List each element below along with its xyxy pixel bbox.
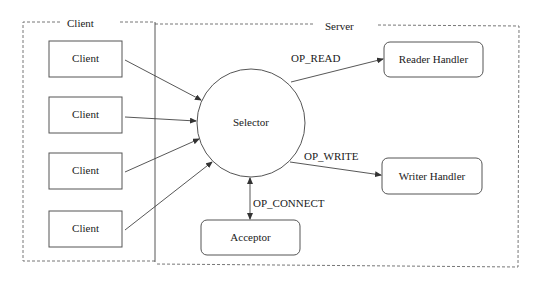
client-node-3[interactable]: Client xyxy=(49,153,122,189)
selector-label: Selector xyxy=(233,116,269,128)
op-write-arrow xyxy=(290,162,381,175)
client1-to-selector-arrow xyxy=(125,60,201,100)
client-node-1[interactable]: Client xyxy=(49,41,122,77)
client-label: Client xyxy=(72,52,99,64)
reader-handler-node[interactable]: Reader Handler xyxy=(384,42,483,77)
writer-handler-label: Writer Handler xyxy=(399,170,466,182)
acceptor-node[interactable]: Acceptor xyxy=(201,220,300,255)
client-label: Client xyxy=(72,164,99,176)
acceptor-label: Acceptor xyxy=(230,231,271,243)
server-region-label: Server xyxy=(325,20,354,32)
client-node-2[interactable]: Client xyxy=(49,97,122,133)
selector-node[interactable]: Selector xyxy=(197,69,305,177)
client-region-label: Client xyxy=(67,17,94,29)
client-node-4[interactable]: Client xyxy=(49,211,122,247)
client-label: Client xyxy=(72,222,99,234)
client4-to-selector-arrow xyxy=(125,162,212,230)
client-label: Client xyxy=(72,108,99,120)
architecture-diagram: Client Server Client Client Client Clien… xyxy=(0,0,540,284)
client2-to-selector-arrow xyxy=(125,117,196,121)
op-connect-label: OP_CONNECT xyxy=(253,197,325,209)
writer-handler-node[interactable]: Writer Handler xyxy=(382,158,482,194)
op-write-label: OP_WRITE xyxy=(304,150,359,162)
reader-handler-label: Reader Handler xyxy=(399,53,469,65)
op-read-label: OP_READ xyxy=(291,52,341,64)
client3-to-selector-arrow xyxy=(125,139,199,172)
